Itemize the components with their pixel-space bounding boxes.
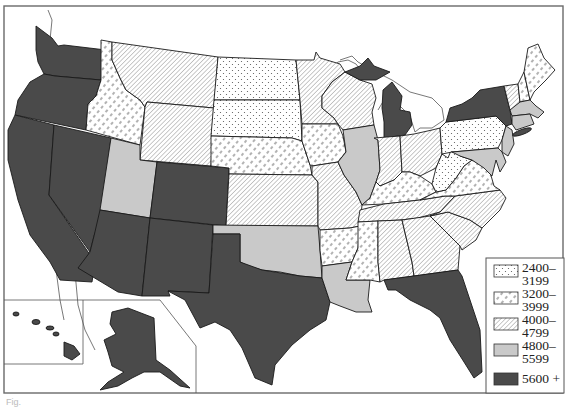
state-maine: [524, 44, 555, 100]
state-colorado: [150, 162, 229, 226]
state-kansas: [226, 174, 318, 226]
state-alaska: [100, 308, 190, 390]
state-florida: [384, 270, 482, 378]
legend-swatch-dots: [494, 265, 518, 277]
state-south-dakota: [211, 100, 302, 141]
legend-swatch-dark-gray: [494, 373, 518, 385]
state-new-mexico: [142, 218, 213, 296]
us-choropleth-map: 2400– 3199 3200– 3999 4000– 4799 4800– 5…: [0, 0, 567, 409]
state-hawaii: [13, 312, 80, 360]
legend-label: 5600 +: [522, 371, 560, 386]
state-north-dakota: [214, 57, 300, 100]
legend-swatch-wide-hatch: [494, 292, 518, 304]
legend-swatch-light-gray: [494, 344, 518, 356]
legend-label: 5599: [522, 351, 549, 366]
state-washington: [36, 26, 106, 80]
figure-caption: Fig.: [6, 397, 21, 407]
legend: 2400– 3199 3200– 3999 4000– 4799 4800– 5…: [486, 258, 564, 393]
state-wyoming: [140, 102, 214, 166]
legend-item-5600-plus: 5600 +: [494, 371, 560, 386]
legend-swatch-dense-hatch: [494, 318, 518, 330]
